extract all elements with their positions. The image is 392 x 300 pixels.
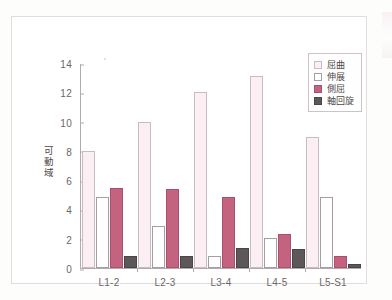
bar (264, 238, 277, 268)
bar-group: L1-2 (81, 64, 137, 268)
bar (180, 256, 193, 268)
legend-item: 側屈 (314, 83, 354, 94)
y-axis-tick-label: 4 (66, 205, 72, 216)
y-axis-tick: 8 (66, 146, 80, 157)
y-axis-tick: 10 (60, 117, 80, 128)
bar (222, 197, 235, 268)
legend-label: 伸展 (327, 72, 345, 82)
x-axis-tick-label: L2-3 (155, 277, 176, 288)
bar-group: L2-3 (137, 64, 193, 268)
y-axis-tick: 12 (60, 88, 80, 99)
x-axis-tick-label: L1-2 (99, 277, 120, 288)
legend-swatch (314, 97, 322, 105)
bar (152, 226, 165, 268)
y-axis-tick-label: 14 (60, 59, 72, 70)
y-axis-tick-label: 10 (60, 117, 72, 128)
bar (138, 122, 151, 268)
legend-label: 軸回旋 (327, 96, 354, 106)
legend-item: 伸展 (314, 71, 354, 82)
x-axis-line (80, 268, 361, 269)
y-axis-tick-label: 8 (66, 146, 72, 157)
bar-group: L4-5 (249, 64, 305, 268)
scanned-page: 可動域 02468101214 L1-2L2-3L3-4L4-5L5-S1 屈曲… (0, 0, 392, 300)
bar (250, 76, 263, 268)
legend-item: 屈曲 (314, 59, 354, 70)
y-axis-tick-label: 12 (60, 88, 72, 99)
y-axis-tick: 6 (66, 176, 80, 187)
bar (82, 151, 95, 268)
bar (348, 264, 361, 268)
bar-group: L3-4 (193, 64, 249, 268)
bar (334, 256, 347, 268)
bar (96, 197, 109, 268)
bar (194, 92, 207, 268)
bar (110, 188, 123, 268)
legend-label: 屈曲 (327, 60, 345, 70)
legend-label: 側屈 (327, 84, 345, 94)
legend-swatch (314, 61, 322, 69)
y-axis-title: 可動域 (42, 145, 56, 178)
chart-legend: 屈曲伸展側屈軸回旋 (308, 53, 362, 112)
bar (124, 256, 137, 268)
bar (236, 248, 249, 268)
y-axis-tick-label: 0 (66, 264, 72, 275)
y-axis-tick: 2 (66, 234, 80, 245)
x-axis-tick-label: L3-4 (211, 277, 232, 288)
scan-artifact-speck (104, 58, 106, 60)
bar (306, 137, 319, 268)
x-axis-tick-label: L4-5 (267, 277, 288, 288)
y-axis-tick: 4 (66, 205, 80, 216)
bar (320, 197, 333, 268)
adjacent-page-bleed (382, 12, 392, 58)
x-axis-tick-label: L5-S1 (319, 277, 347, 288)
legend-swatch (314, 73, 322, 81)
bar (208, 256, 221, 268)
y-axis-tick-mark (80, 269, 84, 270)
y-axis-tick: 14 (60, 59, 80, 70)
legend-swatch (314, 85, 322, 93)
bar (292, 249, 305, 268)
y-axis-tick-label: 2 (66, 234, 72, 245)
bar (278, 234, 291, 268)
figure-frame: 可動域 02468101214 L1-2L2-3L3-4L4-5L5-S1 屈曲… (11, 16, 367, 284)
y-axis-tick: 0 (66, 264, 80, 275)
bar (166, 189, 179, 268)
legend-item: 軸回旋 (314, 95, 354, 106)
y-axis-tick-label: 6 (66, 176, 72, 187)
